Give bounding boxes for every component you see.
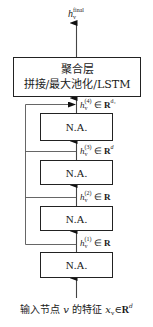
box-label: N.A.: [66, 121, 87, 133]
h-subscript: v: [85, 243, 88, 249]
box-label: N.A.: [66, 259, 87, 271]
element-of-symbol: ∈: [114, 304, 121, 315]
h-subscript: v: [85, 105, 88, 111]
input-middle: 的特征: [72, 304, 102, 315]
neighborhood-aggregation-box-3: N.A.: [40, 160, 113, 185]
h-superscript: (2): [85, 190, 92, 196]
layer-3-output-label: hv(3) ∈ Rd: [80, 144, 114, 157]
h-superscript: (1): [85, 236, 92, 242]
box-label: N.A.: [66, 213, 87, 225]
aggregation-layer-subtitle: 拼接/最大池化/LSTM: [24, 77, 131, 92]
dim-superscript: d: [111, 144, 114, 150]
output-superscript: final: [73, 7, 84, 13]
set-symbol: R: [104, 192, 111, 202]
aggregation-layer-title: 聚合层: [61, 62, 94, 77]
box-label: N.A.: [66, 167, 87, 179]
h-superscript: (4): [85, 98, 92, 104]
neighborhood-aggregation-box-1: N.A.: [40, 252, 113, 278]
neighborhood-aggregation-box-4: N.A.: [40, 113, 113, 141]
output-subscript: v: [73, 14, 76, 20]
layer-2-output-label: hv(2) ∈ R: [80, 190, 111, 203]
dim-superscript: d₄: [111, 98, 116, 104]
set-symbol: R: [104, 238, 111, 248]
layer-1-output-label: hv(1) ∈ R: [80, 236, 111, 249]
dim-superscript: d: [129, 302, 133, 309]
h-subscript: v: [85, 197, 88, 203]
h-subscript: v: [85, 151, 88, 157]
input-feature-label: 输入节点 v 的特征 xv∈Rd: [0, 301, 153, 316]
output-label: hvfinal: [68, 7, 84, 20]
aggregation-layer-box: 聚合层 拼接/最大池化/LSTM: [13, 57, 141, 97]
neighborhood-aggregation-box-2: N.A.: [40, 206, 113, 231]
h-superscript: (3): [85, 144, 92, 150]
layer-4-output-label: hv(4) ∈ Rd₄: [80, 98, 116, 111]
set-symbol: R: [122, 304, 129, 315]
input-node: v: [63, 304, 69, 315]
input-prefix: 输入节点: [20, 304, 60, 315]
